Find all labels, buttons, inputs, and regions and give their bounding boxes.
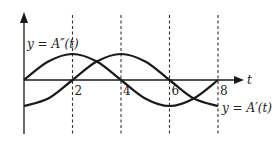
- x-tick-label: 2: [75, 84, 83, 98]
- dashed-guides: [73, 15, 219, 134]
- x-tick-label: 8: [220, 84, 228, 98]
- x-axis-label: t: [247, 73, 252, 87]
- y-axis-arrow-icon: [20, 12, 28, 23]
- series-label-a-double-prime: y = A″(t): [26, 37, 79, 51]
- x-axis-arrow-icon: [234, 76, 244, 84]
- graph: t 2468 y = A″(t) y = A′(t): [0, 0, 280, 141]
- series-label-a-prime: y = A′(t): [221, 101, 272, 115]
